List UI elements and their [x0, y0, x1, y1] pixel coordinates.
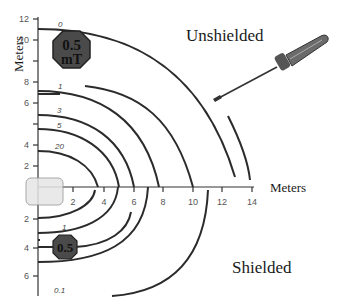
x-tick: 4	[101, 197, 106, 207]
shielded-contour-label-1: 1	[62, 223, 66, 232]
x-tick: 10	[188, 197, 198, 207]
y-tick: 4	[24, 243, 29, 253]
y-tick: 4	[24, 140, 29, 150]
shielded-label: Shielded	[232, 258, 292, 278]
contour-label: 3	[57, 106, 62, 115]
badge-value: 0.5	[62, 37, 81, 53]
y-tick: 12	[19, 14, 29, 24]
y-tick: 8	[24, 77, 29, 87]
y-tick: 6	[24, 98, 29, 108]
magnet-source-box	[26, 178, 63, 205]
x-tick: 12	[217, 197, 227, 207]
shielded-contour-label-0-1: 0.1	[54, 286, 65, 295]
x-axis-title: Meters	[270, 180, 306, 195]
lower-field-badge: 0.5	[53, 235, 77, 259]
x-tick: 6	[131, 197, 136, 207]
x-tick-labels: 2 4 6 8 10 12 14	[70, 197, 257, 207]
contour-label: 20	[54, 142, 64, 151]
contour-label: 0	[58, 20, 63, 29]
y-axis-title: Meters	[11, 36, 26, 72]
y-tick: 2	[24, 161, 29, 171]
x-tick: 14	[247, 197, 257, 207]
unshielded-label: Unshielded	[186, 26, 263, 46]
x-tick: 8	[160, 197, 165, 207]
y-tick: 2	[24, 214, 29, 224]
y-tick: 6	[24, 271, 29, 281]
contour-label: 5	[57, 121, 62, 130]
upper-field-badge: 0.5 mT	[53, 31, 90, 68]
x-tick: 2	[70, 197, 75, 207]
badge-value: 0.5	[57, 240, 74, 255]
contour-0-extension	[228, 116, 250, 180]
badge-unit: mT	[61, 52, 83, 67]
contour-label: 1	[58, 82, 62, 91]
y-tick-labels-down: 2 4 6	[24, 214, 29, 281]
